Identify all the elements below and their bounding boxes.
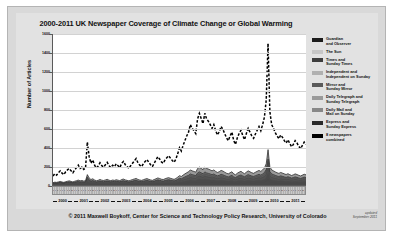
y-axis-tick-mark [49,91,52,92]
y-axis-tick-label: 1000 [10,89,50,93]
x-axis-year-label: 2006 [179,196,200,206]
y-axis-tick-mark [49,72,52,73]
y-axis-tick-mark [49,167,52,168]
legend-label: Daily Mail andMail on Sunday [326,108,355,117]
x-axis-year-label: 2001 [73,196,94,206]
legend-label: Times andSunday Times [326,58,352,67]
legend-item-independent-and-independent-on-sunday[interactable]: Independent andIndependent on Sunday [312,70,388,79]
gridline [53,91,306,92]
x-axis-year-label: 2005 [158,196,179,206]
chart-legend: Guardianand ObserverThe SunTimes andSund… [312,37,388,146]
legend-label: The Sun [326,50,341,55]
y-axis-tick-label: 1400 [10,51,50,55]
y-axis-tick-label: 1600 [10,32,50,36]
y-axis-tick-label: 1200 [10,70,50,74]
legend-label: Mirror andSunday Mirror [326,83,352,92]
legend-swatch [312,96,323,100]
x-axis-year-label: 2010 [264,196,285,206]
legend-swatch [312,58,323,62]
legend-swatch [312,50,323,54]
legend-swatch [312,121,323,125]
legend-swatch [312,108,323,112]
x-axis-year-label: 2011 [285,196,306,206]
legend-label: Daily Telegraph andSunday Telegraph [326,95,363,104]
y-axis-tick-mark [49,34,52,35]
legend-item-the-sun[interactable]: The Sun [312,50,388,55]
updated-date: September 2011 [353,215,377,219]
x-axis-year-label: 2008 [221,196,242,206]
y-axis-tick-mark [49,148,52,149]
x-axis-year-label: 2004 [137,196,158,206]
x-axis-month-cell: D [303,187,305,194]
y-axis-tick-label: 600 [10,127,50,131]
gridline [53,72,306,73]
y-axis-tick-mark [49,53,52,54]
x-axis-year-label: 2009 [243,196,264,206]
y-axis-tick-label: 0 [10,184,50,188]
gridline [53,53,306,54]
chart-inner-panel: 2000-2011 UK Newspaper Coverage of Clima… [16,13,378,209]
x-axis-year-label: 2000 [52,196,73,206]
legend-label: 8 newspaperscombined [326,133,352,142]
y-axis-tick-label: 800 [10,108,50,112]
y-axis-tick-label: 200 [10,165,50,169]
x-axis-month-band: JFMAMJJASONDJFMAMJJASONDJFMAMJJASONDJFMA… [52,186,306,195]
legend-item-guardian-and-observer[interactable]: Guardianand Observer [312,37,388,46]
legend-label: Guardianand Observer [326,37,351,46]
y-axis-tick-label: 400 [10,146,50,150]
y-axis-tick-mark [49,129,52,130]
chart-title: 2000-2011 UK Newspaper Coverage of Clima… [16,19,316,28]
gridline [53,34,306,35]
x-axis-year-label: 2002 [94,196,115,206]
legend-swatch [312,38,323,42]
legend-swatch [312,134,323,138]
x-axis-year-label: 2007 [200,196,221,206]
legend-item-daily-mail-and-mail-on-sunday[interactable]: Daily Mail andMail on Sunday [312,108,388,117]
legend-label: Express andSunday Express [326,120,356,129]
y-axis-tick-mark [49,110,52,111]
legend-swatch [312,83,323,87]
chart-figure: 2000-2011 UK Newspaper Coverage of Clima… [7,6,386,231]
legend-swatch [312,71,323,75]
legend-item-express-and-sunday-express[interactable]: Express andSunday Express [312,120,388,129]
plot-area-wrapper: 02004006008001000120014001600 [52,34,306,186]
updated-note: updated September 2011 [353,211,377,220]
legend-item-times-and-sunday-times[interactable]: Times andSunday Times [312,58,388,67]
gridline [53,110,306,111]
gridline [53,129,306,130]
gridline [53,167,306,168]
x-axis-year-label: 2003 [116,196,137,206]
plot-area [52,34,306,186]
credit-line: © 2011 Maxwell Boykoff, Center for Scien… [8,213,387,219]
legend-item-daily-telegraph-and-sunday-telegraph[interactable]: Daily Telegraph andSunday Telegraph [312,95,388,104]
legend-item-8-newspapers-combined[interactable]: 8 newspaperscombined [312,133,388,142]
x-axis-year-labels: 2000200120022003200420052006200720082009… [52,196,306,206]
legend-item-mirror-and-sunday-mirror[interactable]: Mirror andSunday Mirror [312,83,388,92]
gridline [53,148,306,149]
legend-label: Independent andIndependent on Sunday [326,70,370,79]
